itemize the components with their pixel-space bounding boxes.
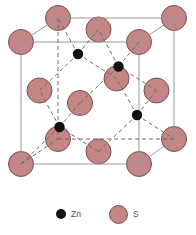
- page: Zn S: [0, 0, 196, 235]
- zn-s-bond: [40, 54, 79, 91]
- crystal-structure-svg: [0, 0, 196, 196]
- legend-item-zn: Zn: [56, 203, 81, 225]
- zn-s-bond: [78, 54, 117, 79]
- zn-atom: [73, 49, 83, 59]
- zn-atom: [132, 110, 142, 120]
- zn-atom: [113, 61, 123, 71]
- legend-label-s: S: [133, 210, 139, 219]
- cube-edge: [21, 18, 58, 42]
- zn-s-bond: [137, 115, 174, 139]
- zn-atom: [54, 122, 64, 132]
- cube-edge: [139, 139, 174, 164]
- s-atom-icon: [109, 205, 128, 224]
- legend-item-s: S: [109, 203, 139, 225]
- cube-hidden-edge: [21, 139, 58, 164]
- zn-s-bond: [99, 115, 138, 152]
- cube-edge: [139, 18, 174, 42]
- legend: Zn S: [0, 203, 196, 225]
- zn-atom-icon: [56, 209, 66, 219]
- legend-label-zn: Zn: [71, 210, 81, 219]
